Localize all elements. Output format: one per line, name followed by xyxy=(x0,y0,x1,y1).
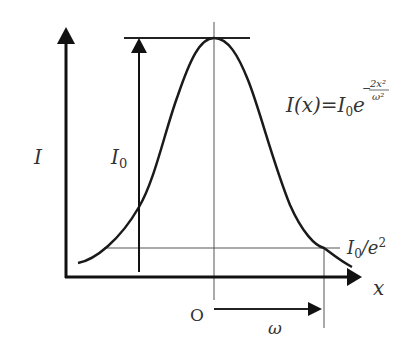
threshold-label: I0/e2 xyxy=(346,236,386,261)
peak-intensity-label: I0 xyxy=(110,145,127,171)
peak-intensity-arrowhead xyxy=(131,38,147,53)
svg-text:I(x)=I0e: I(x)=I0e xyxy=(285,93,365,119)
omega-arrowhead-icon xyxy=(308,302,322,316)
beam-radius-label: ω xyxy=(268,318,282,338)
gaussian-formula: I(x)=I0e − 2x² ω² xyxy=(285,78,389,119)
y-axis-label: I xyxy=(33,145,43,169)
y-axis-arrowhead-icon xyxy=(57,27,75,44)
x-axis-arrowhead-icon xyxy=(347,268,362,286)
x-axis-label: x xyxy=(373,276,384,300)
origin-label: O xyxy=(190,305,204,325)
exponent-denominator: ω² xyxy=(372,91,384,102)
gaussian-diagram: I I0 I0/e2 x O ω I(x)=I0e − 2x² ω² xyxy=(0,0,415,361)
exponent-numerator: 2x² xyxy=(369,78,386,89)
gaussian-curve xyxy=(78,38,352,267)
